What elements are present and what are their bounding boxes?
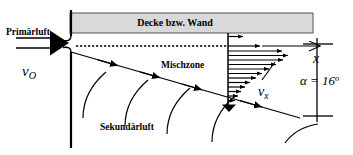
x-axis-label: x [313,52,319,66]
alpha-value: = 16 [307,73,335,88]
primary-air-label: Primärluft [6,28,50,38]
ceiling-wall-label: Decke bzw. Wand [137,18,213,28]
secondary-air-label: Sekundärluft [100,123,154,133]
inlet-velocity-symbol: v [22,63,29,79]
mixing-zone-label: Mischzone [161,61,204,71]
local-velocity-label: vx [258,85,268,101]
inlet-velocity-subscript: O [29,70,36,81]
degree-symbol: o [335,73,339,83]
spread-angle-label: α = 16o [300,74,339,87]
velocity-profile [222,33,288,112]
alpha-symbol: α [300,73,307,88]
airflow-diagram: Primärluft Decke bzw. Wand Mischzone Sek… [0,0,353,155]
inlet-velocity-label: vO [22,64,36,81]
local-velocity-subscript: x [264,91,268,101]
